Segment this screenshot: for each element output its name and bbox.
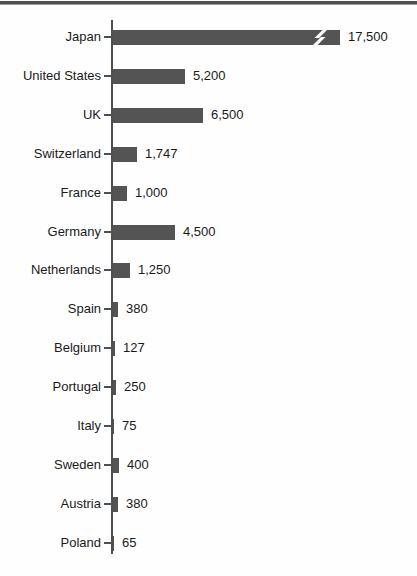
bar-row: Switzerland1,747 bbox=[0, 135, 417, 174]
bar-row: Belgium127 bbox=[0, 329, 417, 368]
bar-row: Netherlands1,250 bbox=[0, 251, 417, 290]
axis-tick bbox=[104, 464, 111, 466]
axis-tick bbox=[104, 153, 111, 155]
value-label: 6,500 bbox=[211, 106, 244, 124]
category-label: Germany bbox=[0, 223, 101, 241]
value-label: 380 bbox=[126, 300, 148, 318]
category-label: Netherlands bbox=[0, 261, 101, 279]
value-label: 5,200 bbox=[193, 67, 226, 85]
bar bbox=[113, 30, 340, 45]
category-label: Belgium bbox=[0, 339, 101, 357]
bar bbox=[113, 69, 185, 84]
bar bbox=[113, 536, 114, 551]
category-label: Poland bbox=[0, 534, 101, 552]
category-label: Switzerland bbox=[0, 145, 101, 163]
bar-row: Spain380 bbox=[0, 290, 417, 329]
category-label: Portugal bbox=[0, 378, 101, 396]
category-label: Sweden bbox=[0, 456, 101, 474]
value-label: 400 bbox=[127, 456, 149, 474]
category-label: Italy bbox=[0, 417, 101, 435]
value-label: 1,747 bbox=[145, 145, 178, 163]
bar bbox=[113, 380, 116, 395]
value-label: 250 bbox=[124, 378, 146, 396]
bar-row: Portugal250 bbox=[0, 368, 417, 407]
bar bbox=[113, 263, 130, 278]
bar bbox=[113, 497, 118, 512]
bar bbox=[113, 225, 175, 240]
page: Japan17,500United States5,200UK6,500Swit… bbox=[0, 0, 417, 576]
value-label: 380 bbox=[126, 495, 148, 513]
category-label: Japan bbox=[0, 28, 101, 46]
axis-tick bbox=[104, 308, 111, 310]
bar-row: Poland65 bbox=[0, 524, 417, 563]
axis-tick bbox=[104, 192, 111, 194]
category-label: Spain bbox=[0, 300, 101, 318]
bar-row: France1,000 bbox=[0, 174, 417, 213]
value-label: 75 bbox=[122, 417, 136, 435]
bar-row: Germany4,500 bbox=[0, 213, 417, 252]
bar-row: Austria380 bbox=[0, 485, 417, 524]
axis-tick bbox=[104, 75, 111, 77]
axis-tick bbox=[104, 542, 111, 544]
bar-row: United States5,200 bbox=[0, 57, 417, 96]
axis-tick bbox=[104, 231, 111, 233]
bar-row: UK6,500 bbox=[0, 96, 417, 135]
value-label: 1,000 bbox=[135, 184, 168, 202]
bar-row: Japan17,500 bbox=[0, 18, 417, 57]
axis-tick bbox=[104, 347, 111, 349]
bar-row: Sweden400 bbox=[0, 446, 417, 485]
value-label: 127 bbox=[123, 339, 145, 357]
bar bbox=[113, 302, 118, 317]
category-label: Austria bbox=[0, 495, 101, 513]
value-label: 4,500 bbox=[183, 223, 216, 241]
axis-tick bbox=[104, 114, 111, 116]
axis-break-lightning-icon bbox=[312, 30, 328, 45]
bar bbox=[113, 108, 203, 123]
axis-tick bbox=[104, 36, 111, 38]
axis-tick bbox=[104, 425, 111, 427]
bar bbox=[113, 419, 114, 434]
bar-chart: Japan17,500United States5,200UK6,500Swit… bbox=[0, 0, 417, 576]
bar bbox=[113, 186, 127, 201]
bar bbox=[113, 458, 119, 473]
axis-tick bbox=[104, 269, 111, 271]
axis-tick bbox=[104, 503, 111, 505]
bar-row: Italy75 bbox=[0, 407, 417, 446]
value-label: 17,500 bbox=[348, 28, 388, 46]
bar bbox=[113, 147, 137, 162]
bar bbox=[113, 341, 115, 356]
axis-tick bbox=[104, 386, 111, 388]
value-label: 65 bbox=[122, 534, 136, 552]
value-label: 1,250 bbox=[138, 261, 171, 279]
category-label: France bbox=[0, 184, 101, 202]
category-label: UK bbox=[0, 106, 101, 124]
category-label: United States bbox=[0, 67, 101, 85]
